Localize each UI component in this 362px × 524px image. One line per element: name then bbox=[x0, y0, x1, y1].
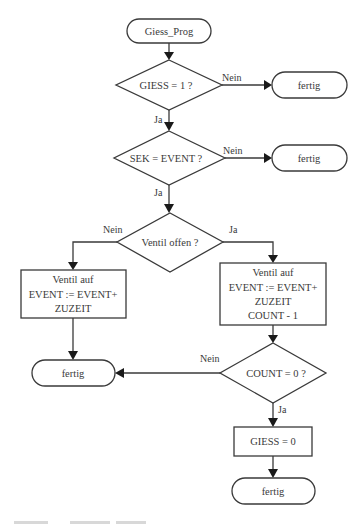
arrow-right-icon bbox=[264, 153, 272, 163]
process-line: EVENT := EVENT+ bbox=[229, 282, 318, 293]
decision-label: Ventil offen ? bbox=[142, 237, 199, 248]
edge-label-yes: Ja bbox=[154, 114, 163, 125]
start-label: Giess_Prog bbox=[145, 26, 194, 37]
terminal-label: fertig bbox=[298, 80, 321, 91]
flowchart: Giess_Prog GIESS = 1 ? Nein fertig Ja SE… bbox=[0, 0, 362, 524]
terminal-fertig-4: fertig bbox=[232, 478, 315, 504]
edge-label-no: Nein bbox=[223, 145, 242, 156]
decision-ventil-offen: Ventil offen ? bbox=[117, 213, 223, 272]
edge-label-yes: Ja bbox=[278, 404, 287, 415]
arrow-down-icon bbox=[68, 351, 78, 360]
decision-count-0: COUNT = 0 ? bbox=[220, 343, 326, 403]
process-giess-0: GIESS = 0 bbox=[234, 427, 312, 456]
decision-giess-1: GIESS = 1 ? bbox=[116, 60, 222, 110]
arrow-left-icon bbox=[115, 368, 124, 378]
arrow-down-icon bbox=[268, 418, 278, 427]
decision-label: COUNT = 0 ? bbox=[246, 368, 306, 379]
process-ventil-auf-right: Ventil auf EVENT := EVENT+ ZUZEIT COUNT … bbox=[220, 263, 326, 325]
arrow-down-icon bbox=[164, 204, 174, 213]
edge-label-yes: Ja bbox=[229, 224, 238, 235]
edge-label-yes: Ja bbox=[154, 187, 163, 198]
start-terminal: Giess_Prog bbox=[127, 19, 211, 43]
terminal-label: fertig bbox=[298, 153, 321, 164]
arrow-right-icon bbox=[264, 80, 272, 90]
decision-sek-event: SEK = EVENT ? bbox=[114, 131, 225, 185]
process-line: COUNT - 1 bbox=[248, 310, 298, 321]
arrow-down-icon bbox=[268, 255, 278, 263]
edge-label-no: Nein bbox=[200, 353, 219, 364]
decision-label: SEK = EVENT ? bbox=[130, 153, 203, 164]
terminal-fertig-3: fertig bbox=[32, 360, 115, 386]
process-line: Ventil auf bbox=[52, 274, 94, 285]
arrow-down-icon bbox=[164, 52, 174, 60]
process-line: ZUZEIT bbox=[55, 303, 92, 314]
terminal-label: fertig bbox=[262, 486, 285, 497]
process-line: EVENT := EVENT+ bbox=[29, 289, 118, 300]
arrow-down-icon bbox=[268, 469, 278, 478]
terminal-label: fertig bbox=[62, 368, 85, 379]
process-line: GIESS = 0 bbox=[250, 436, 296, 447]
process-line: ZUZEIT bbox=[255, 296, 292, 307]
terminal-fertig-2: fertig bbox=[272, 145, 347, 171]
edge-label-no: Nein bbox=[222, 72, 241, 83]
process-ventil-auf-left: Ventil auf EVENT := EVENT+ ZUZEIT bbox=[21, 270, 126, 318]
arrow-down-icon bbox=[164, 122, 174, 131]
arrow-down-icon bbox=[268, 335, 278, 343]
decision-label: GIESS = 1 ? bbox=[140, 80, 193, 91]
process-line: Ventil auf bbox=[252, 267, 294, 278]
edge-label-no: Nein bbox=[103, 224, 122, 235]
terminal-fertig-1: fertig bbox=[272, 72, 347, 98]
arrow-down-icon bbox=[68, 262, 78, 270]
